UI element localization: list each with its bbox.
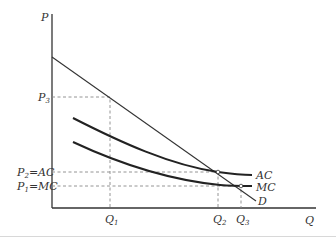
mc-demand-intersection	[239, 184, 243, 188]
demand-curve	[52, 57, 256, 201]
p1-guide	[52, 186, 241, 208]
x-axis-label: Q	[305, 214, 314, 227]
p2-label: P2=AC	[16, 166, 55, 180]
natural-monopoly-diagram: P Q AC MC D P3 P2=AC P1=MC Q1 Q2 Q3	[0, 0, 336, 238]
mc-label: MC	[255, 181, 276, 194]
average-cost-curve	[73, 118, 252, 175]
p3-guide	[52, 97, 110, 208]
p2-guide	[52, 172, 218, 208]
bottom-divider	[0, 236, 336, 237]
p1-label: P1=MC	[16, 180, 58, 194]
ac-demand-intersection	[216, 170, 220, 174]
demand-label: D	[257, 195, 267, 208]
q1-label: Q1	[105, 213, 119, 227]
y-axis-label: P	[40, 11, 49, 24]
p3-label: P3	[37, 91, 50, 105]
q3-label: Q3	[236, 213, 250, 227]
q2-label: Q2	[213, 213, 227, 227]
